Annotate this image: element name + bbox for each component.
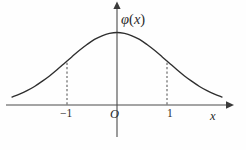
x-axis-arrowhead — [226, 101, 234, 108]
phi-paren-close: ) — [140, 11, 145, 27]
tick-label-negative-one: −1 — [60, 108, 72, 120]
tick-label-positive-one: 1 — [167, 108, 173, 120]
y-axis-arrowhead — [113, 2, 120, 10]
y-axis-label: φ(x) — [121, 12, 145, 27]
origin-label: O — [110, 108, 119, 121]
phi-symbol: φ — [121, 11, 129, 27]
normal-distribution-figure: φ(x) O x −1 1 — [0, 0, 246, 150]
x-axis-label: x — [210, 110, 216, 123]
